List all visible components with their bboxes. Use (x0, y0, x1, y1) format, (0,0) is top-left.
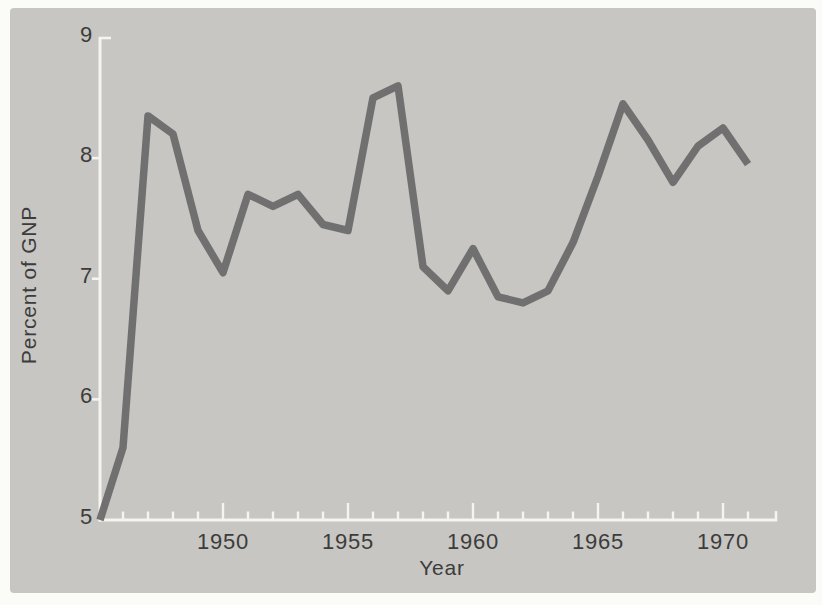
x-tick-label: 1955 (322, 529, 374, 554)
x-axis-title: Year (419, 556, 465, 579)
gnp-data-line (100, 86, 748, 520)
y-axis-title: Percent of GNP (17, 206, 40, 364)
y-tick-label: 6 (80, 383, 93, 408)
x-tick-label: 1950 (197, 529, 249, 554)
y-tick-label: 7 (80, 263, 93, 288)
scanned-figure-page: 5678919501955196019651970YearPercent of … (0, 0, 822, 605)
percent-of-gnp-line-chart: 5678919501955196019651970YearPercent of … (0, 0, 822, 605)
x-tick-label: 1960 (447, 529, 499, 554)
y-tick-label: 5 (80, 504, 93, 529)
y-tick-label: 9 (80, 22, 93, 47)
x-tick-label: 1965 (572, 529, 624, 554)
y-tick-label: 8 (80, 142, 93, 167)
x-tick-label: 1970 (697, 529, 749, 554)
